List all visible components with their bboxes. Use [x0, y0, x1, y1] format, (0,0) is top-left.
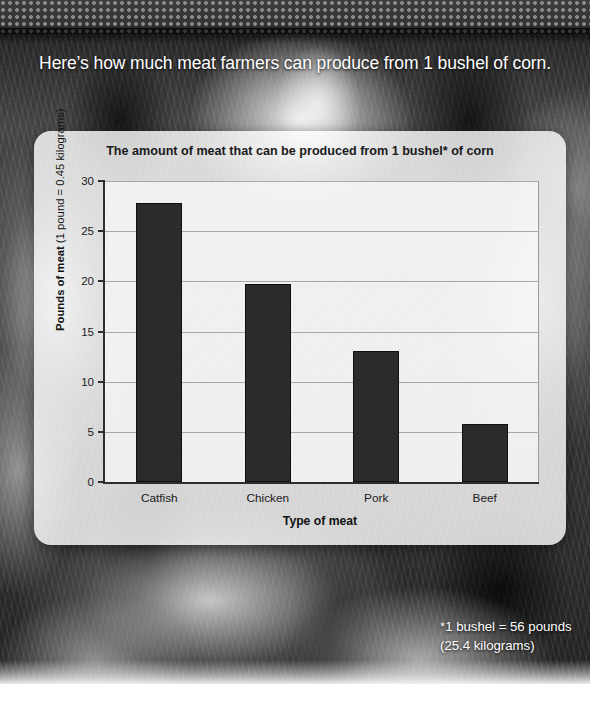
y-axis-title: Pounds of meat (1 pound = 0.45 kilograms… [54, 108, 66, 331]
bar-beef [462, 424, 508, 482]
bar-group: Beef [431, 181, 540, 482]
infographic-page: Here’s how much meat farmers can produce… [0, 0, 590, 707]
plot-area: 051015202530 CatfishChickenPorkBeef [103, 181, 539, 484]
y-axis-tick-label: 30 [81, 175, 94, 187]
y-axis-tick-label: 25 [81, 225, 94, 237]
bar-catfish [136, 203, 182, 482]
x-axis-category-label: Catfish [105, 491, 214, 505]
bar-chicken [245, 284, 291, 482]
footnote: *1 bushel = 56 pounds (25.4 kilograms) [440, 617, 572, 655]
y-axis-tick-label: 15 [81, 326, 94, 338]
bottom-fade [0, 660, 590, 686]
headline-text: Here’s how much meat farmers can produce… [0, 53, 590, 74]
halftone-band-shadow [0, 28, 590, 44]
x-axis-category-label: Pork [322, 491, 431, 505]
x-axis-category-label: Chicken [214, 491, 323, 505]
x-axis-category-label: Beef [431, 491, 540, 505]
y-axis-tick-label: 0 [88, 476, 94, 488]
y-axis-tick-label: 10 [81, 376, 94, 388]
y-axis-tick [98, 481, 105, 483]
y-axis-tick [98, 180, 105, 182]
y-axis-tick [98, 280, 105, 282]
y-axis-tick [98, 431, 105, 433]
y-axis-tick-label: 5 [88, 426, 94, 438]
bar-pork [353, 351, 399, 482]
y-axis-title-regular: (1 pound = 0.45 kilograms) [54, 108, 66, 243]
chart-card: The amount of meat that can be produced … [34, 131, 566, 545]
bar-group: Chicken [214, 181, 323, 482]
y-axis-title-bold: Pounds of meat [54, 243, 66, 331]
y-axis-tick-label: 20 [81, 275, 94, 287]
bar-group: Pork [322, 181, 431, 482]
footnote-line-2: (25.4 kilograms) [440, 636, 572, 655]
bottom-white-band [0, 684, 590, 707]
y-axis-tick [98, 381, 105, 383]
bar-group: Catfish [105, 181, 214, 482]
bars-layer: CatfishChickenPorkBeef [105, 181, 539, 482]
y-axis-tick [98, 230, 105, 232]
chart-title: The amount of meat that can be produced … [34, 144, 566, 158]
y-axis-tick [98, 331, 105, 333]
footnote-line-1: *1 bushel = 56 pounds [440, 617, 572, 636]
x-axis-title: Type of meat [103, 514, 537, 528]
